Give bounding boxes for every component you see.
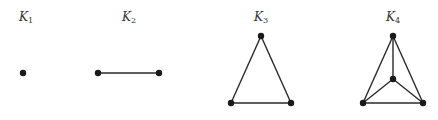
graph-k1 bbox=[20, 70, 26, 76]
label-k4-subscript: 4 bbox=[395, 16, 400, 25]
label-k1-letter: K bbox=[19, 10, 28, 24]
vertex bbox=[390, 33, 396, 39]
vertex bbox=[390, 76, 396, 82]
label-k3-subscript: 3 bbox=[263, 16, 268, 25]
edge bbox=[363, 36, 393, 103]
vertex bbox=[20, 70, 26, 76]
graph-k4 bbox=[360, 33, 426, 106]
label-k1-subscript: 1 bbox=[28, 16, 33, 25]
graph-k2 bbox=[95, 70, 162, 76]
vertex bbox=[420, 100, 426, 106]
edge bbox=[363, 79, 393, 103]
label-k2-letter: K bbox=[122, 10, 131, 24]
label-k2-subscript: 2 bbox=[131, 16, 136, 25]
label-k1: K1 bbox=[19, 10, 33, 25]
label-k4: K4 bbox=[386, 10, 400, 25]
vertex bbox=[228, 100, 234, 106]
label-k3-letter: K bbox=[254, 10, 263, 24]
vertex bbox=[156, 70, 162, 76]
vertex bbox=[258, 33, 264, 39]
label-k2: K2 bbox=[122, 10, 136, 25]
vertex bbox=[360, 100, 366, 106]
edge bbox=[261, 36, 291, 103]
vertex bbox=[288, 100, 294, 106]
label-k3: K3 bbox=[254, 10, 268, 25]
label-k4-letter: K bbox=[386, 10, 395, 24]
edge bbox=[393, 36, 423, 103]
edge bbox=[231, 36, 261, 103]
graph-canvas bbox=[0, 0, 438, 120]
edge bbox=[393, 79, 423, 103]
vertex bbox=[95, 70, 101, 76]
graph-k3 bbox=[228, 33, 294, 106]
